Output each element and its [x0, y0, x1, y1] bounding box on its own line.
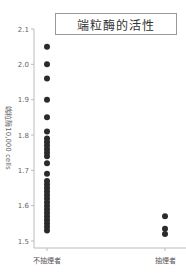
data-point [44, 153, 50, 159]
y-tick-label: 1.6 [18, 202, 30, 210]
data-point [44, 160, 50, 166]
data-point [44, 75, 50, 81]
x-category-label: 抽煙者 [155, 256, 176, 265]
data-point [162, 231, 168, 237]
y-tick-label: 1.8 [18, 132, 29, 140]
y-tick-label: 2.0 [18, 61, 29, 69]
data-point [44, 227, 50, 233]
data-point [44, 128, 50, 134]
data-point [162, 213, 168, 219]
data-point [44, 114, 50, 120]
data-point [44, 44, 50, 50]
data-point [44, 61, 50, 67]
x-category-label: 不抽煙者 [33, 256, 61, 265]
data-points [44, 44, 168, 237]
data-point [162, 226, 168, 232]
y-axis-ticks: 1.51.61.71.81.92.02.1 [18, 26, 34, 246]
y-tick-label: 1.7 [18, 167, 29, 175]
y-tick-label: 1.9 [18, 96, 29, 104]
data-point [44, 97, 50, 103]
dot-plot: 1.51.61.71.81.92.02.1 不抽煙者抽煙者 [0, 0, 186, 276]
data-point [44, 171, 50, 177]
y-tick-label: 2.1 [18, 26, 29, 34]
x-axis-ticks: 不抽煙者抽煙者 [33, 248, 176, 265]
y-tick-label: 1.5 [18, 238, 29, 246]
